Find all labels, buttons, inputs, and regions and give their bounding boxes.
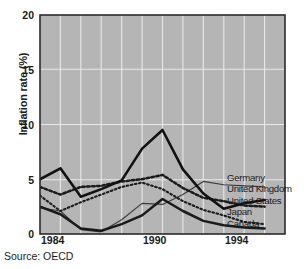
x-tick-1994: 1994 [225, 234, 248, 246]
legend-item-canada: Canada [227, 218, 307, 229]
y-tick-10: 10 [8, 120, 34, 130]
y-axis-ticks: 20 15 10 5 0 [8, 0, 34, 269]
source-caption: Source: OECD [4, 250, 73, 262]
legend-item-united-kingdom: United Kingdom [227, 183, 307, 194]
legend-item-germany: Germany [227, 172, 307, 183]
legend-item-united-states: United States [227, 195, 307, 206]
x-tick-1990: 1990 [143, 234, 166, 246]
x-axis-ticks: 1984 1990 1994 [0, 234, 307, 250]
chart-legend: Germany United Kingdom United States Jap… [227, 172, 307, 229]
x-tick-1984: 1984 [41, 234, 64, 246]
legend-item-japan: Japan [227, 206, 307, 217]
y-tick-20: 20 [8, 10, 34, 20]
y-tick-5: 5 [8, 175, 34, 185]
chart-figure: Inflation rate (%) 20 15 10 5 0 [0, 0, 307, 269]
y-tick-15: 15 [8, 65, 34, 75]
